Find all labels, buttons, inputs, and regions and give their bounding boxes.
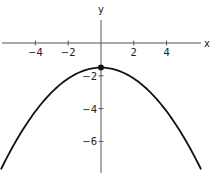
x-tick-label: 2 xyxy=(131,47,137,58)
y-axis-label: y xyxy=(98,4,104,15)
axes xyxy=(2,20,201,173)
y-tick-label: −2 xyxy=(82,71,97,82)
tick-labels: −4−224−2−4−6 xyxy=(28,47,170,147)
y-tick-label: −4 xyxy=(82,104,97,115)
x-axis-label: x xyxy=(204,38,210,49)
parabola-chart: −4−224−2−4−6 x y xyxy=(0,0,211,173)
x-tick-label: −4 xyxy=(28,47,43,58)
x-tick-label: 4 xyxy=(163,47,169,58)
vertex-point xyxy=(98,65,104,71)
y-tick-label: −6 xyxy=(82,136,97,147)
x-tick-label: −2 xyxy=(61,47,76,58)
